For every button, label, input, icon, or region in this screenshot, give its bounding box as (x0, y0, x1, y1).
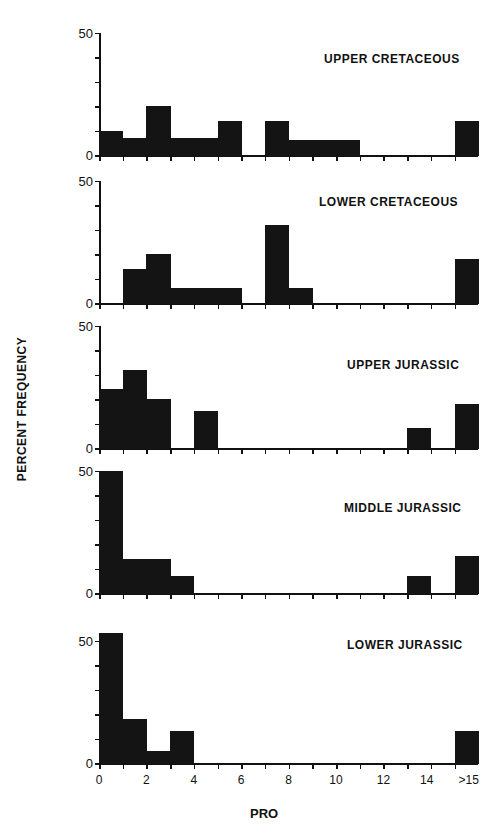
x-tick-label: 6 (226, 773, 256, 787)
histogram-bar (265, 225, 289, 304)
x-tick (431, 156, 433, 161)
y-tick (95, 181, 100, 183)
x-tick (265, 156, 267, 161)
y-tick-label-50: 50 (63, 27, 93, 40)
x-tick-label: 0 (84, 773, 114, 787)
histogram-bar (146, 559, 170, 594)
x-tick (123, 304, 125, 309)
x-tick-label: 12 (368, 773, 398, 787)
y-tick (95, 230, 100, 232)
x-tick (170, 449, 172, 454)
y-axis-line (99, 181, 101, 304)
x-tick (99, 156, 101, 161)
x-tick (289, 594, 291, 599)
x-tick (455, 594, 457, 599)
histogram-bar (336, 140, 360, 156)
x-tick (383, 304, 385, 309)
x-tick-label: 8 (274, 773, 304, 787)
histogram-bar (99, 389, 123, 449)
histogram-bar (312, 140, 336, 156)
histogram-bar (218, 121, 242, 156)
x-tick-label: 10 (321, 773, 351, 787)
x-tick (241, 594, 243, 599)
x-tick (455, 764, 457, 769)
y-tick-label-50: 50 (63, 320, 93, 333)
y-tick (95, 350, 100, 352)
histogram-bar (407, 576, 431, 594)
x-tick (407, 764, 409, 769)
x-tick (336, 594, 338, 599)
x-tick (360, 449, 362, 454)
histogram-bar (99, 131, 123, 157)
y-tick (95, 375, 100, 377)
histogram-bar (218, 288, 242, 304)
x-tick-label: 4 (179, 773, 209, 787)
x-tick-label: 2 (131, 773, 161, 787)
x-tick-label: >15 (454, 773, 484, 787)
x-tick (312, 304, 314, 309)
x-tick (312, 449, 314, 454)
histogram-bar (170, 288, 194, 304)
x-tick (431, 449, 433, 454)
x-tick (241, 156, 243, 161)
histogram-bar (123, 269, 147, 304)
x-axis-title: PRO (250, 806, 278, 821)
x-tick (360, 156, 362, 161)
x-tick (99, 764, 101, 769)
x-tick (455, 304, 457, 309)
x-tick (336, 304, 338, 309)
x-tick (241, 449, 243, 454)
histogram-bar (170, 576, 194, 594)
x-tick (431, 304, 433, 309)
y-tick (95, 106, 100, 108)
histogram-bar (455, 404, 479, 449)
panel-title: LOWER JURASSIC (347, 638, 463, 652)
x-tick (123, 449, 125, 454)
x-tick (289, 156, 291, 161)
x-tick (336, 449, 338, 454)
x-tick (455, 449, 457, 454)
histogram-bar (123, 370, 147, 449)
x-tick (194, 764, 196, 769)
histogram-bar (123, 719, 147, 764)
x-tick (383, 156, 385, 161)
x-tick (218, 449, 220, 454)
y-tick-label-0: 0 (63, 757, 93, 770)
histogram-bar (123, 559, 147, 594)
x-tick (289, 449, 291, 454)
y-tick-label-50: 50 (63, 635, 93, 648)
histogram-bar (407, 428, 431, 449)
y-tick (95, 279, 100, 281)
x-tick (265, 304, 267, 309)
x-tick (194, 594, 196, 599)
histogram-bar (194, 411, 218, 449)
histogram-bar (455, 556, 479, 594)
x-tick (241, 304, 243, 309)
x-tick (336, 156, 338, 161)
histogram-bar (289, 288, 313, 304)
x-tick (289, 304, 291, 309)
histogram-bar (146, 399, 170, 449)
x-tick (455, 156, 457, 161)
histogram-bar (170, 731, 194, 764)
x-tick (431, 764, 433, 769)
x-tick (289, 764, 291, 769)
y-tick-label-50: 50 (63, 175, 93, 188)
x-tick (265, 764, 267, 769)
y-tick-label-0: 0 (63, 442, 93, 455)
x-tick (312, 764, 314, 769)
x-tick (218, 304, 220, 309)
x-tick (360, 304, 362, 309)
y-tick (95, 82, 100, 84)
x-tick (194, 304, 196, 309)
y-tick (95, 57, 100, 59)
histogram-bar (265, 121, 289, 156)
y-tick-label-0: 0 (63, 297, 93, 310)
x-tick (123, 764, 125, 769)
x-tick (123, 594, 125, 599)
x-tick (265, 594, 267, 599)
histogram-bar (455, 259, 479, 304)
y-tick-label-0: 0 (63, 149, 93, 162)
y-tick-label-0: 0 (63, 587, 93, 600)
y-axis-title: PERCENT FREQUENCY (15, 329, 29, 489)
